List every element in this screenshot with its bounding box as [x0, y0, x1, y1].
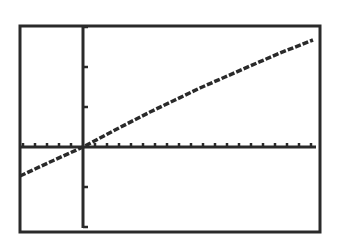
- plotted-function-line: [20, 40, 313, 176]
- calculator-graph-screen: [0, 0, 339, 241]
